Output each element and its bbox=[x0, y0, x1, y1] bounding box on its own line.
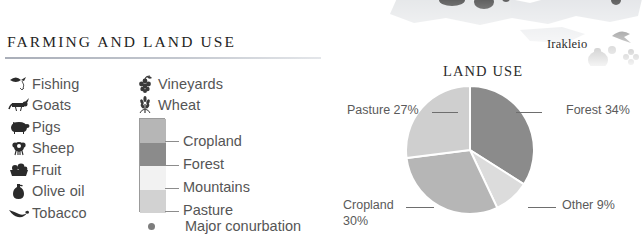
legend-item: Pigs bbox=[6, 116, 87, 138]
legend-item: Fishing bbox=[6, 73, 87, 95]
swatch-label: Forest bbox=[183, 156, 224, 172]
map-fragment bbox=[380, 0, 642, 66]
pie-label-pasture: Pasture 27% bbox=[347, 103, 419, 118]
swatch-cropland bbox=[140, 119, 166, 143]
swatch-label: Pasture bbox=[183, 202, 233, 218]
legend-item: Wheat bbox=[132, 95, 223, 117]
legend-item: Vineyards bbox=[132, 73, 223, 95]
swatch-leader-line bbox=[165, 165, 179, 166]
legend-item-label: Goats bbox=[32, 97, 71, 113]
pie-label-cropland: Cropland bbox=[343, 198, 394, 213]
legend-item-label: Sheep bbox=[32, 140, 74, 156]
legend-item: Tobacco bbox=[6, 202, 87, 224]
pie-leader-line-forest bbox=[516, 112, 542, 113]
swatch-pasture bbox=[140, 190, 166, 214]
fruit-icon bbox=[6, 160, 32, 180]
legend-item: Olive oil bbox=[6, 181, 87, 203]
legend-item-label: Vineyards bbox=[158, 76, 223, 92]
land-use-pie-chart bbox=[404, 84, 536, 216]
swatch-column bbox=[139, 118, 165, 212]
goat-icon bbox=[6, 95, 32, 115]
legend-column-farming: Fishing Goats Pigs Sheep Fruit bbox=[6, 73, 87, 224]
pie-leader-line-cropland bbox=[406, 207, 434, 208]
pie-leader-line-pasture bbox=[432, 112, 458, 113]
legend-column-crops: Vineyards Wheat bbox=[132, 73, 223, 116]
legend-item-label: Wheat bbox=[158, 97, 200, 113]
olive-oil-icon bbox=[6, 181, 32, 201]
swatch-leader-line bbox=[165, 141, 179, 142]
title-divider bbox=[5, 57, 321, 59]
fishing-icon bbox=[6, 74, 32, 94]
legend-item-label: Olive oil bbox=[32, 183, 84, 199]
legend-item-label: Pigs bbox=[32, 119, 61, 135]
swatch-label: Mountains bbox=[183, 179, 250, 195]
pie-slice-pasture bbox=[406, 86, 470, 158]
swatch-leader-line bbox=[165, 188, 179, 189]
chart-title: LAND USE bbox=[443, 63, 523, 80]
map-city-label: Irakleio bbox=[547, 37, 587, 52]
pie-label-other: Other 9% bbox=[562, 198, 615, 213]
swatch-leader-line bbox=[165, 211, 179, 212]
swatch-forest bbox=[140, 143, 166, 167]
legend-item: Goats bbox=[6, 95, 87, 117]
panel-title: FARMING AND LAND USE bbox=[7, 33, 236, 51]
wheat-icon bbox=[132, 95, 158, 115]
legend-item-label: Fruit bbox=[32, 162, 62, 178]
pie-label-cropland-value: 30% bbox=[343, 214, 368, 229]
pie-label-forest: Forest 34% bbox=[566, 103, 630, 118]
vineyards-icon bbox=[132, 74, 158, 94]
legend-item-label: Tobacco bbox=[32, 205, 87, 221]
pig-icon bbox=[6, 117, 32, 137]
legend-item-major-conurbation: Major conurbation bbox=[148, 218, 301, 234]
legend-item-label: Major conurbation bbox=[185, 218, 301, 234]
swatch-label: Cropland bbox=[183, 133, 242, 149]
tobacco-icon bbox=[6, 203, 32, 223]
conurbation-dot-icon bbox=[148, 223, 155, 230]
swatch-mountains bbox=[140, 166, 166, 190]
legend-item: Fruit bbox=[6, 159, 87, 181]
pie-leader-line-other bbox=[528, 207, 556, 208]
legend-item: Sheep bbox=[6, 138, 87, 160]
sheep-icon bbox=[6, 138, 32, 158]
legend-item-label: Fishing bbox=[32, 76, 79, 92]
